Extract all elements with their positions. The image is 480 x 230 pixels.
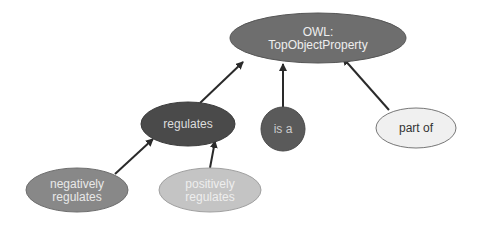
- node-label: regulates: [185, 190, 234, 204]
- edge-pos-regulates-to-regulates: [210, 141, 215, 168]
- node-label: OWL:: [303, 25, 334, 39]
- node-top[interactable]: OWL:TopObjectProperty: [230, 13, 406, 63]
- node-label: is a: [274, 122, 293, 136]
- node-label: negatively: [50, 177, 104, 191]
- property-hierarchy-diagram: OWL:TopObjectPropertyregulatesis apart o…: [0, 0, 480, 230]
- edge-part-of-to-top: [343, 58, 389, 110]
- edge-regulates-to-top: [200, 62, 243, 103]
- edge-neg-regulates-to-regulates: [115, 139, 153, 174]
- node-label: positively: [185, 177, 234, 191]
- node-label: part of: [399, 121, 434, 135]
- nodes: OWL:TopObjectPropertyregulatesis apart o…: [26, 13, 456, 212]
- node-regulates[interactable]: regulates: [141, 102, 235, 146]
- node-pos-regulates[interactable]: positivelyregulates: [159, 168, 261, 212]
- node-is-a[interactable]: is a: [261, 107, 305, 151]
- node-part-of[interactable]: part of: [376, 108, 456, 148]
- node-label: regulates: [163, 117, 212, 131]
- node-neg-regulates[interactable]: negativelyregulates: [26, 168, 128, 212]
- node-label: TopObjectProperty: [268, 38, 367, 52]
- node-label: regulates: [52, 190, 101, 204]
